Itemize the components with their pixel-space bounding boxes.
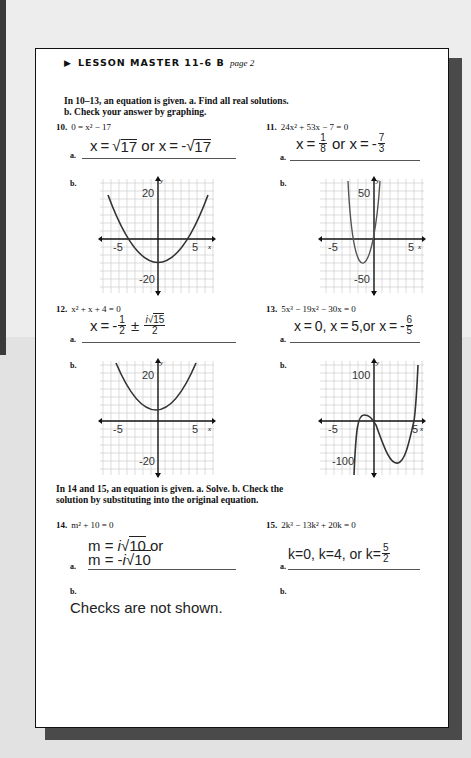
play-arrow-icon: ▶ [64, 58, 72, 68]
problem-equation: 2k³ − 13k² + 20k = 0 [281, 520, 356, 530]
graph-13b-svg: y 100 -5 5 x -100 [318, 357, 426, 479]
problem-13: 13.5x³ − 19x² − 30x = 0 [266, 304, 356, 314]
graph-11b: y 50 -5 5 x -50 [318, 175, 426, 297]
problem-equation: x² + x + 4 = 0 [71, 304, 120, 314]
header-page: page 2 [230, 58, 254, 68]
svg-text:y: y [375, 359, 380, 367]
part-b-label: b. [280, 587, 286, 596]
answer-13a: x = 0, x = 5,or x = -65 [290, 315, 420, 336]
graph-10b: y 20 -5 5 x -20 [98, 175, 216, 297]
svg-text:5: 5 [412, 423, 418, 435]
answer-line-14a: m = i√10 or m = -i√10 [88, 539, 236, 570]
section2-instructions: In 14 and 15, an equation is given. a. S… [56, 484, 283, 505]
svg-text:5: 5 [192, 241, 198, 253]
part-a-label: a. [70, 151, 76, 160]
svg-text:-100: -100 [332, 455, 354, 467]
svg-text:20: 20 [142, 369, 154, 381]
answer-12a: x = -12 ± i√152 [82, 315, 236, 336]
problem-15: 15.2k³ − 13k² + 20k = 0 [266, 520, 356, 530]
svg-text:-20: -20 [139, 455, 155, 467]
part-b-label: b. [280, 361, 286, 370]
problem-12: 12.x² + x + 4 = 0 [56, 304, 121, 314]
part-a-label: a. [280, 153, 286, 162]
part-b-label: b. [70, 361, 76, 370]
graph-12b-svg: y 20 -5 5 x -20 [98, 357, 216, 479]
answer-line-13a: x = 0, x = 5,or x = -65 [290, 315, 420, 343]
svg-text:5: 5 [408, 241, 414, 253]
part-b-label: b. [70, 587, 76, 596]
problem-equation: 5x³ − 19x² − 30x = 0 [281, 304, 356, 314]
header-title: LESSON MASTER 11-6 B [78, 57, 225, 68]
svg-text:-20: -20 [139, 273, 155, 285]
graph-10b-svg: y 20 -5 5 x -20 [98, 175, 216, 297]
problem-equation: 24x² + 53x − 7 = 0 [281, 122, 348, 132]
instructions-line: solution by substituting into the origin… [56, 495, 283, 506]
answer-line-10a: x = √17 or x = -√17 [82, 137, 236, 159]
part-a-label: a. [70, 335, 76, 344]
background-dark-strip [0, 0, 6, 355]
instructions-line: b. Check your answer by graphing. [64, 107, 289, 118]
answer-line-12a: x = -12 ± i√152 [82, 315, 236, 343]
svg-text:20: 20 [142, 187, 154, 199]
page-header: ▶LESSON MASTER 11-6 B page 2 [64, 57, 254, 68]
svg-text:-5: -5 [328, 423, 338, 435]
svg-text:-5: -5 [328, 241, 338, 253]
answer-line-11a: x = 18 or x = -73 [290, 133, 420, 161]
answer-11a: x = 18 or x = -73 [290, 133, 420, 154]
problem-number: 10. [56, 122, 67, 132]
graph-13b: y 100 -5 5 x -100 [318, 357, 426, 479]
svg-text:-50: -50 [354, 273, 370, 285]
graph-11b-svg: y 50 -5 5 x -50 [318, 175, 426, 297]
part-b-label: b. [280, 179, 286, 188]
worksheet-page: ▶LESSON MASTER 11-6 B page 2 In 10–13, a… [35, 48, 449, 728]
part-b-label: b. [70, 179, 76, 188]
svg-text:y: y [159, 359, 164, 367]
part-a-label: a. [280, 335, 286, 344]
graph-12b: y 20 -5 5 x -20 [98, 357, 216, 479]
problem-number: 15. [266, 520, 277, 530]
svg-text:-5: -5 [113, 241, 123, 253]
section1-instructions: In 10–13, an equation is given. a. Find … [64, 96, 289, 117]
problem-number: 14. [56, 520, 67, 530]
svg-text:-5: -5 [113, 423, 123, 435]
svg-text:5: 5 [192, 423, 198, 435]
problem-11: 11.24x² + 53x − 7 = 0 [266, 122, 348, 132]
problem-equation: m² + 10 = 0 [71, 520, 113, 530]
svg-text:y: y [159, 177, 164, 185]
problem-number: 11. [266, 122, 277, 132]
problem-number: 13. [266, 304, 277, 314]
svg-text:50: 50 [358, 187, 370, 199]
problem-14: 14.m² + 10 = 0 [56, 520, 114, 530]
instructions-line: In 10–13, an equation is given. a. Find … [64, 96, 289, 107]
problem-equation: 0 = x² − 17 [71, 122, 111, 132]
problem-10: 10.0 = x² − 17 [56, 122, 111, 132]
instructions-line: In 14 and 15, an equation is given. a. S… [56, 484, 283, 495]
answer-10a: x = √17 or x = -√17 [82, 137, 236, 154]
checks-not-shown-text: Checks are not shown. [70, 599, 223, 616]
answer-15a: k=0, k=4, or k=52 [288, 543, 420, 564]
answer-14a: m = i√10 or m = -i√10 [88, 539, 236, 567]
part-a-label: a. [70, 562, 76, 571]
problem-number: 12. [56, 304, 67, 314]
svg-text:100: 100 [352, 369, 370, 381]
part-a-label: a. [280, 562, 286, 571]
answer-14a-line2: m = -i√10 [88, 553, 236, 567]
answer-line-15a: k=0, k=4, or k=52 [288, 543, 420, 570]
